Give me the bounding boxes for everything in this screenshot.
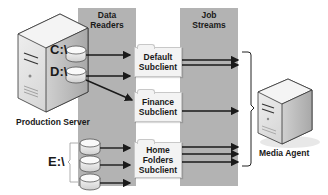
subclient-finance: Finance Subclient [134,92,182,122]
e-drive-bracket-icon [68,143,78,182]
disk-e1-icon [80,139,100,155]
subclient-default: Default Subclient [134,47,182,77]
disk-d-icon [66,67,86,83]
media-agent-label: Media Agent [259,148,309,158]
drive-c-label: C:\ [50,42,67,57]
subclient-home-folders: Home Folders Subclient [134,142,182,178]
disk-e2-icon [80,156,100,172]
disk-c-icon [66,46,86,62]
production-server-label: Production Server [16,117,90,127]
production-server-icon [18,14,88,112]
drive-e-label: E:\ [48,154,65,169]
drive-d-label: D:\ [50,64,67,79]
media-agent-server-icon [258,79,320,148]
disk-e3-icon [80,174,100,190]
job-stream-arrows [181,60,238,162]
streams-brace-icon [242,52,254,166]
